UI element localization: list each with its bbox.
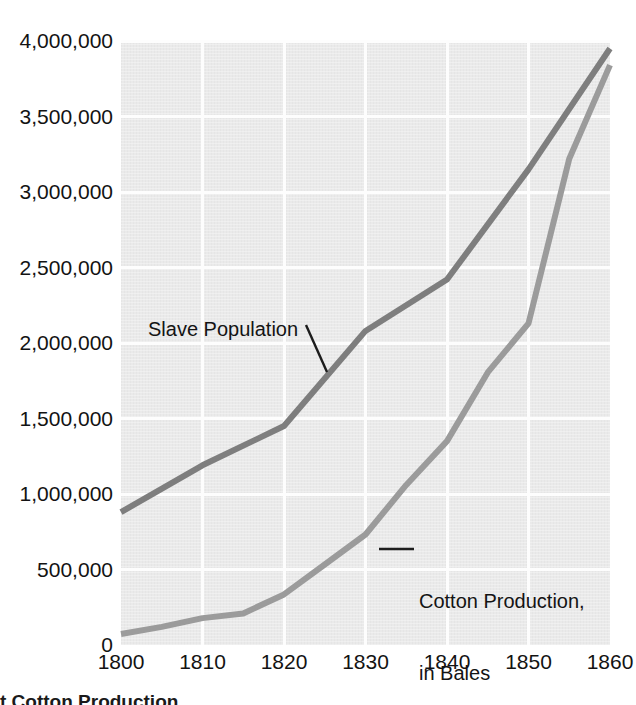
chart-root: 0500,0001,000,0001,500,0002,000,0002,500… xyxy=(0,0,636,705)
page-caption-partial: t Cotton Production xyxy=(0,692,636,705)
annotation-slave-population: Slave Population xyxy=(148,317,298,341)
slave-population-leader-line xyxy=(306,325,327,372)
annotation-cotton-line1: Cotton Production, xyxy=(419,589,585,613)
annotation-cotton-production: Cotton Production, in Bales xyxy=(419,541,585,705)
annotation-cotton-line2: in Bales xyxy=(419,661,585,685)
